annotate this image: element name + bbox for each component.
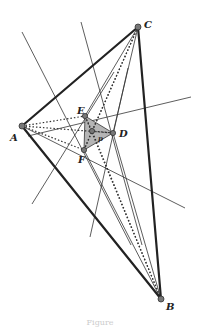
construction-line	[113, 27, 138, 133]
geometry-diagram: A C B E F D p	[0, 0, 200, 327]
construction-line	[85, 27, 138, 116]
label-a: A	[9, 132, 18, 143]
point-f	[81, 147, 86, 152]
label-c: C	[144, 19, 152, 30]
figure-caption: Figure	[0, 318, 200, 327]
construction-line	[28, 97, 191, 136]
point-p	[89, 128, 94, 133]
point-c	[135, 24, 141, 30]
point-b	[158, 296, 164, 302]
construction-lines	[22, 22, 191, 299]
label-e: E	[76, 105, 85, 116]
point-d	[110, 130, 115, 135]
label-b: B	[165, 301, 174, 312]
label-f: F	[77, 154, 86, 165]
dotted-line	[92, 131, 161, 299]
point-a	[19, 123, 25, 129]
label-d: D	[118, 128, 128, 139]
label-p: p	[98, 134, 103, 143]
